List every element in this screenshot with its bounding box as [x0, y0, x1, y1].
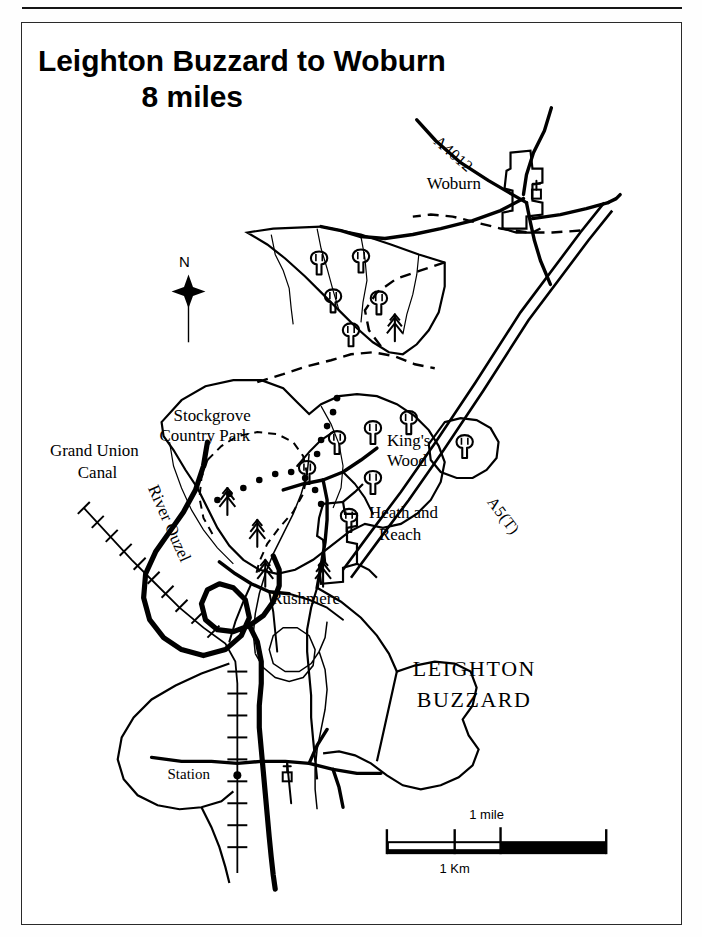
svg-text:A4012: A4012 [431, 132, 477, 175]
svg-text:A5(T): A5(T) [483, 494, 523, 539]
road-label-a4012: A4012 [431, 132, 477, 175]
stockgrove-line-1: Stockgrove [174, 406, 251, 425]
title-line-1: Leighton Buzzard to Woburn [38, 44, 446, 77]
river-ouzel-label: River Ouzel [144, 482, 195, 565]
map-page: Leighton Buzzard to Woburn 8 miles N A5(… [0, 0, 702, 937]
roads-heath-reach[interactable] [283, 432, 377, 588]
heath-and-reach-line-2: Reach [379, 525, 422, 544]
waterway-label-grand-union-canal: Grand Union Canal [50, 441, 139, 482]
top-horizontal-rule [22, 7, 682, 9]
place-label-woburn: Woburn [427, 174, 482, 193]
scale-mile-label: 1 mile [469, 807, 504, 822]
title-line-2: 8 miles [142, 80, 243, 113]
station-dot-icon [233, 771, 241, 779]
map-frame: Leighton Buzzard to Woburn 8 miles N A5(… [21, 22, 682, 925]
leighton-buzzard-line-2: BUZZARD [417, 687, 532, 712]
heath-and-reach-line-1: Heath and [369, 503, 439, 522]
place-label-stockgrove-country-park: Stockgrove Country Park [160, 406, 251, 445]
waterway-label-river-ouzel: River Ouzel [144, 482, 195, 565]
station-marker-group: Station [168, 766, 242, 782]
station-label: Station [168, 766, 211, 782]
scale-km-label: 1 Km [440, 861, 470, 876]
scale-bar-hollow [389, 843, 501, 849]
leighton-buzzard-line-1: LEIGHTON [413, 656, 536, 681]
road-label-a5t: A5(T) [483, 494, 523, 539]
canal-label-line-1: Grand Union [50, 441, 139, 460]
place-label-heath-and-reach: Heath and Reach [369, 503, 439, 544]
railway-line [78, 502, 247, 873]
map-title-group: Leighton Buzzard to Woburn 8 miles [38, 44, 446, 113]
trees-north-woodland [311, 249, 403, 346]
place-label-kings-wood: King's Wood [387, 431, 431, 470]
north-arrow-label: N [179, 253, 190, 270]
north-arrow-icon: N [172, 253, 206, 342]
scale-bar: 1 mile 1 Km [387, 807, 606, 876]
canal-label-line-2: Canal [78, 463, 118, 482]
park-boundary-dashed [199, 432, 307, 578]
kings-wood-line-1: King's [387, 431, 431, 450]
map-canvas[interactable]: Leighton Buzzard to Woburn 8 miles N A5(… [22, 23, 681, 924]
kings-wood-line-2: Wood [387, 451, 428, 470]
